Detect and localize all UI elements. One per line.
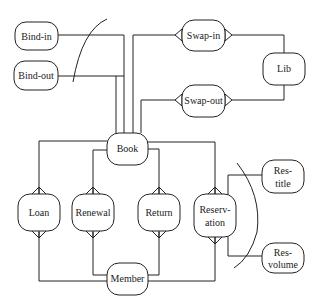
boundary-arc-reservation xyxy=(234,163,258,268)
node-renewal-label: Renewal xyxy=(76,207,111,218)
node-bind-out[interactable]: Bind-out xyxy=(14,61,58,90)
node-reservation[interactable]: Reserv- ation xyxy=(194,194,236,237)
node-res-volume-label-line1: Res- xyxy=(274,247,292,258)
crowfoot-loan-bottom xyxy=(32,231,46,238)
node-swap-in[interactable]: Swap-in xyxy=(182,20,225,51)
edge-swapin-lib xyxy=(232,35,284,53)
edge-member-return xyxy=(148,232,159,275)
node-loan[interactable]: Loan xyxy=(18,194,60,231)
edge-swapout-book xyxy=(141,100,175,133)
crowfoot-return-bottom xyxy=(152,231,166,238)
node-bind-in-label: Bind-in xyxy=(21,31,52,42)
node-book[interactable]: Book xyxy=(107,133,148,165)
node-lib-label: Lib xyxy=(277,63,291,74)
crowfoot-return-top xyxy=(152,187,166,194)
edge-member-reservation xyxy=(148,237,215,281)
crowfoot-renewal-top xyxy=(86,187,100,194)
node-res-volume[interactable]: Res- volume xyxy=(262,243,304,273)
node-swap-out-label: Swap-out xyxy=(184,95,223,106)
edge-reservation-restitle xyxy=(228,175,262,196)
node-swap-in-label: Swap-in xyxy=(187,30,220,41)
crowfoot-reservation-top xyxy=(208,187,222,194)
crowfoot-renewal-bottom xyxy=(86,231,100,238)
crowfoot-loan-top xyxy=(32,187,46,194)
edges xyxy=(39,35,284,281)
crowfoot-reservation-bottom xyxy=(208,237,222,244)
node-reservation-label-line2: ation xyxy=(205,217,225,228)
node-res-title-label-line1: Res- xyxy=(274,165,292,176)
node-res-volume-label-line2: volume xyxy=(268,259,299,270)
edge-book-loan xyxy=(39,141,107,194)
node-member[interactable]: Member xyxy=(107,263,148,295)
edge-member-loan xyxy=(39,232,107,281)
node-bind-in[interactable]: Bind-in xyxy=(15,22,58,50)
node-book-label: Book xyxy=(117,143,139,154)
edge-member-renewal xyxy=(93,232,107,275)
edge-swapout-lib xyxy=(232,85,284,100)
boundary-arc-bind xyxy=(73,19,107,82)
node-member-label: Member xyxy=(111,273,146,284)
edge-swapin-book xyxy=(133,35,175,133)
crowfoot-swapin-left xyxy=(175,29,182,41)
node-bind-out-label: Bind-out xyxy=(18,70,54,81)
node-loan-label: Loan xyxy=(29,207,50,218)
node-return[interactable]: Return xyxy=(138,194,180,231)
crowfoot-swapout-left xyxy=(175,94,182,106)
edge-reservation-resvolume xyxy=(228,236,262,256)
node-res-title-label-line2: title xyxy=(275,178,291,189)
edge-bindin-book xyxy=(58,35,124,133)
er-diagram: Bind-in Bind-out Swap-in Swap-out Lib Bo… xyxy=(0,0,320,307)
crowfoot-swapout-right xyxy=(225,94,232,106)
edge-book-reservation xyxy=(148,142,215,194)
crowfoot-swapin-right xyxy=(225,29,232,41)
node-reservation-label-line1: Reserv- xyxy=(199,204,230,215)
node-lib[interactable]: Lib xyxy=(263,53,305,85)
node-renewal[interactable]: Renewal xyxy=(72,194,114,231)
node-res-title[interactable]: Res- title xyxy=(262,160,304,193)
edge-book-return xyxy=(148,149,159,194)
node-swap-out[interactable]: Swap-out xyxy=(182,85,225,117)
node-return-label: Return xyxy=(145,207,172,218)
edge-book-renewal xyxy=(93,150,107,194)
